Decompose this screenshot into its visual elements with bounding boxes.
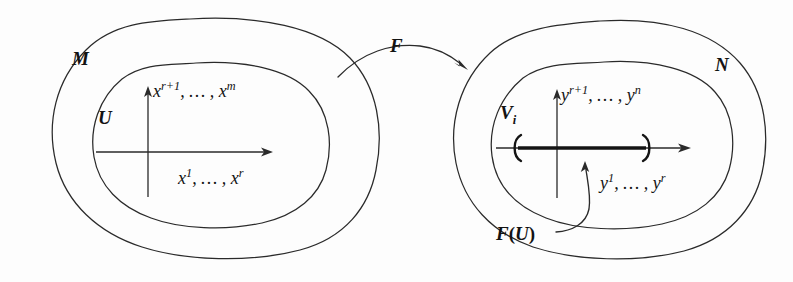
right-horizontal-axis-label: y1, … , yr — [600, 172, 665, 192]
right-h-sup2: r — [661, 171, 666, 185]
map-arrow-f — [338, 45, 468, 77]
image-fu-f: F — [496, 223, 509, 244]
image-fu-u: U — [515, 223, 529, 244]
right-h-mid: , … , — [614, 173, 653, 193]
right-v-sup1: r+1 — [569, 83, 588, 97]
left-horizontal-axis-label: x1, … , xr — [178, 167, 243, 187]
right-v-base1: y — [561, 85, 569, 105]
right-v-mid: , … , — [588, 85, 627, 105]
right-h-base1: y — [600, 173, 608, 193]
image-fu-label: F(U) — [496, 224, 535, 243]
manifold-m-outline — [52, 18, 379, 258]
right-h-base2: y — [653, 173, 661, 193]
manifold-map-diagram: M U xr+1, … , xm x1, … , xr F N Vi yr+1,… — [0, 0, 793, 282]
manifold-n-label: N — [715, 55, 729, 74]
left-h-sup2: r — [239, 166, 244, 180]
left-v-sup1: r+1 — [161, 79, 180, 93]
image-interval-segment — [515, 135, 650, 161]
left-h-base1: x — [178, 168, 186, 188]
right-v-sup2: n — [635, 83, 641, 97]
left-v-base1: x — [153, 81, 161, 101]
chart-u-label: U — [98, 108, 112, 127]
image-label-leader-arrow — [556, 161, 590, 232]
left-h-mid: , … , — [192, 168, 231, 188]
map-f-label: F — [390, 36, 403, 55]
left-v-base2: x — [219, 81, 227, 101]
manifold-m-label: M — [72, 49, 89, 68]
chart-vi-label: Vi — [500, 103, 516, 126]
left-v-mid: , … , — [180, 81, 219, 101]
left-v-sup2: m — [227, 79, 236, 93]
right-v-base2: y — [627, 85, 635, 105]
chart-vi-sub: i — [513, 113, 516, 127]
chart-vi-base: V — [500, 102, 513, 123]
left-vertical-axis-label: xr+1, … , xm — [153, 80, 236, 100]
image-fu-close-paren: ) — [529, 223, 535, 244]
right-vertical-axis-label: yr+1, … , yn — [561, 84, 641, 104]
left-h-base2: x — [231, 168, 239, 188]
